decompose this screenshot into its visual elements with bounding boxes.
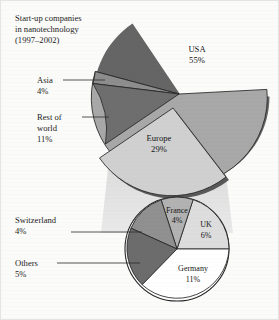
figure-container: Start-up companies in nanotechnology (19… [0,0,279,320]
rest-of-world-label-value: 11% [37,134,52,144]
switzerland-label-name: Switzerland [15,215,57,225]
figure-title: Start-up companies in nanotechnology (19… [15,13,82,45]
asia-label-value: 4% [37,86,48,96]
rest-of-world-label-line1: Rest of [37,112,62,122]
detail-label-uk-name: UK [200,220,212,229]
title-line-3: (1997–2002) [15,35,60,45]
asia-label-name: Asia [37,75,53,85]
switzerland-label-value: 4% [15,226,26,236]
main-label-europe-value: 29% [151,144,167,154]
nanotechnology-pie-figure: Start-up companies in nanotechnology (19… [1,1,279,320]
main-label-europe-name: Europe [147,133,172,143]
detail-label-germany-name: Germany [178,264,208,273]
detail-label-uk-value: 6% [201,231,212,240]
europe-detail-pie-chart: France 4% UK 6% Germany 11% [125,197,229,301]
detail-label-france-value: 4% [172,216,183,225]
main-label-usa-name: USA [188,44,206,54]
title-line-2: in nanotechnology [15,24,79,34]
callout-others: Others 5% [15,258,140,279]
main-label-usa-value: 55% [189,55,205,65]
title-line-1: Start-up companies [15,13,82,23]
others-label-name: Others [15,258,39,268]
others-label-value: 5% [15,269,26,279]
detail-label-france-name: France [166,206,188,215]
main-pie-chart: USA 55% Europe 29% [91,24,269,199]
detail-label-germany-value: 11% [186,275,201,284]
rest-of-world-label-line2: world [37,123,58,133]
